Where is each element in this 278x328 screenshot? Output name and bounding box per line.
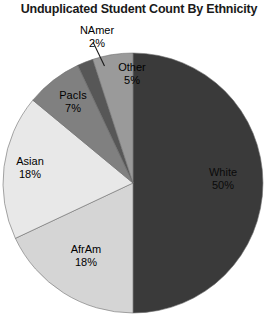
- pie-label-asian-name: Asian: [0, 155, 61, 168]
- pie-label-afram-name: AfrAm: [55, 243, 117, 256]
- pie-label-namer: NAmer 2%: [60, 24, 134, 50]
- pie-label-white-name: White: [193, 166, 253, 179]
- pie-label-white: White 50%: [193, 166, 253, 192]
- pie-chart: Unduplicated Student Count By Ethnicity …: [0, 0, 278, 328]
- pie-label-other-value: 5%: [103, 74, 161, 87]
- pie-label-asian: Asian 18%: [0, 155, 61, 181]
- pie-label-pacis-name: PacIs: [44, 89, 102, 102]
- pie-label-white-value: 50%: [193, 179, 253, 192]
- pie-label-namer-value: 2%: [60, 37, 134, 50]
- pie-label-asian-value: 18%: [0, 168, 61, 181]
- pie-label-other-name: Other: [103, 61, 161, 74]
- pie-label-afram-value: 18%: [55, 256, 117, 269]
- pie-label-pacis-value: 7%: [44, 102, 102, 115]
- pie-label-pacis: PacIs 7%: [44, 89, 102, 115]
- pie-label-afram: AfrAm 18%: [55, 243, 117, 269]
- pie-label-namer-name: NAmer: [60, 24, 134, 37]
- pie-label-other: Other 5%: [103, 61, 161, 87]
